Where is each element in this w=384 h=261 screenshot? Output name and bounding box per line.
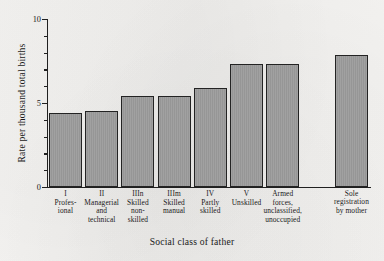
y-axis-tick-label: 0 [37,183,41,192]
y-axis-minor-tick [44,120,47,121]
bar [121,96,154,187]
y-axis-title-text: Rate per thousand total births [16,44,27,163]
bar [266,64,299,187]
x-axis-tick-label: Armedforces,unclassified,unoccupied [261,190,305,224]
y-axis-minor-tick [44,170,47,171]
y-axis-minor-tick [44,36,47,37]
x-axis-tick-label: Soleregistrationby mother [324,190,380,215]
plot-area: 0510 [47,19,371,187]
y-axis-minor-tick [44,69,47,70]
x-axis-tick-label-line: skilled [116,216,160,224]
x-axis-title: Social class of father [0,236,384,247]
chart-figure: Rate per thousand total births 0510 IPro… [0,0,384,261]
x-axis-tick-label-line: unoccupied [261,216,305,224]
y-axis-title: Rate per thousand total births [12,22,30,184]
y-axis-major-tick [42,19,47,20]
bar [335,55,368,187]
y-axis-major-tick [42,187,47,188]
y-axis-minor-tick [44,53,47,54]
y-axis-minor-tick [44,86,47,87]
y-axis-major-tick [42,103,47,104]
bar [194,88,227,187]
x-axis-tick-label-line: by mother [324,207,380,215]
y-axis-tick-label: 10 [33,15,41,24]
y-axis-minor-tick [44,137,47,138]
x-axis-tick-label-line: skilled [188,207,232,215]
bar [85,111,118,187]
y-axis-tick-label: 5 [37,99,41,108]
x-axis-tick-labels: IProfes-ionalIIManagerialandtechnicalIII… [47,190,371,235]
bar [230,64,263,187]
bar [49,113,82,187]
y-axis-minor-tick [44,153,47,154]
bar [158,96,191,187]
